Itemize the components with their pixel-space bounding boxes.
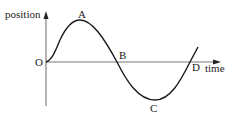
point-label-a: A <box>78 8 86 20</box>
point-label-b: B <box>119 49 126 61</box>
origin-label: O <box>35 56 43 68</box>
x-axis-label: time <box>205 62 225 74</box>
y-axis-label: position <box>5 8 41 20</box>
y-axis-arrow-icon <box>44 11 49 19</box>
point-label-d: D <box>192 61 200 73</box>
position-time-diagram: position time O A B C D <box>0 0 240 122</box>
point-label-c: C <box>150 102 157 114</box>
